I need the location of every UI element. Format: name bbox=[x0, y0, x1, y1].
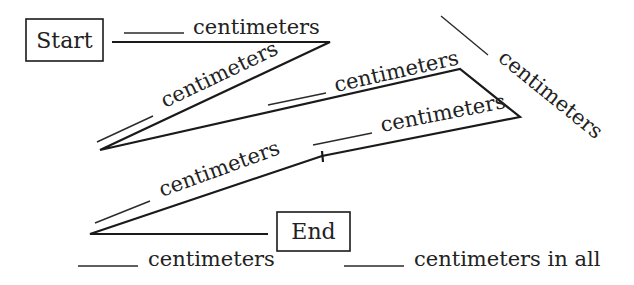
total-label: centimeters in all bbox=[414, 247, 601, 271]
segment-3-answer-blank[interactable] bbox=[268, 93, 326, 105]
segment-3-label: centimeters bbox=[332, 46, 461, 97]
segment-7-label: centimeters bbox=[148, 247, 275, 271]
segment-6-label: centimeters bbox=[156, 136, 283, 202]
path-diagram: Start End centimeters centimeters centim… bbox=[0, 0, 634, 285]
segment-5-answer-blank[interactable] bbox=[313, 133, 372, 145]
segment-tick-mark bbox=[322, 151, 323, 162]
segment-1-label: centimeters bbox=[193, 15, 320, 39]
start-box: Start bbox=[26, 19, 103, 61]
segment-5-label: centimeters bbox=[378, 89, 507, 137]
end-box: End bbox=[277, 212, 350, 251]
segment-6-answer-blank[interactable] bbox=[95, 201, 150, 223]
measured-path bbox=[90, 42, 520, 234]
segment-4-label: centimeters bbox=[494, 45, 608, 144]
end-label: End bbox=[291, 219, 335, 244]
start-label: Start bbox=[36, 28, 93, 53]
